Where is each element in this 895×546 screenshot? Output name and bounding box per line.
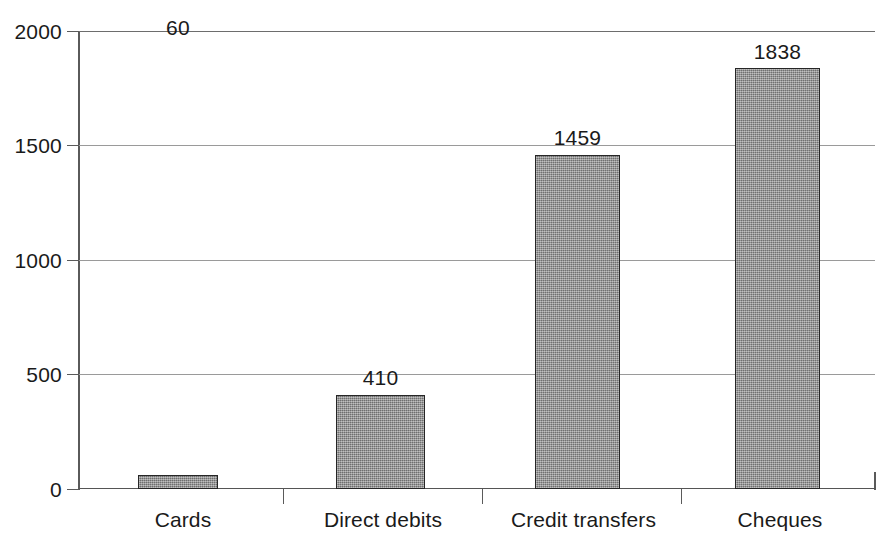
y-tick-mark-500	[67, 374, 79, 375]
bar-cheques	[735, 68, 820, 489]
category-separator-3	[681, 489, 682, 504]
category-label-direct-debits: Direct debits	[298, 508, 468, 531]
bar-value-cheques: 1838	[735, 41, 820, 62]
category-label-credit-transfers: Credit transfers	[496, 508, 671, 531]
bar-cards	[138, 475, 218, 489]
bar-chart: 2000 1500 1000 500 0 60 410 1459 1838	[0, 0, 895, 546]
y-tick-label-1000: 1000	[0, 250, 62, 271]
category-separator-2	[482, 489, 483, 504]
category-label-cards: Cards	[98, 508, 268, 531]
category-label-cheques: Cheques	[695, 508, 865, 531]
y-tick-mark-0	[67, 489, 79, 490]
y-tick-mark-2000	[67, 31, 79, 32]
y-tick-label-2000: 2000	[0, 21, 62, 42]
category-separator-1	[283, 489, 284, 504]
y-tick-mark-1500	[67, 145, 79, 146]
bar-direct-debits	[336, 395, 425, 489]
y-tick-label-500: 500	[0, 364, 62, 385]
bar-value-direct-debits: 410	[336, 367, 425, 388]
bar-value-credit-transfers: 1459	[535, 127, 620, 148]
y-tick-label-0: 0	[0, 479, 62, 500]
bar-credit-transfers	[535, 155, 620, 489]
bar-value-cards: 60	[138, 17, 218, 38]
y-axis-tick-labels: 2000 1500 1000 500 0	[0, 0, 62, 546]
plot-area: 60 410 1459 1838	[79, 31, 875, 489]
y-tick-mark-1000	[67, 260, 79, 261]
y-tick-label-1500: 1500	[0, 135, 62, 156]
